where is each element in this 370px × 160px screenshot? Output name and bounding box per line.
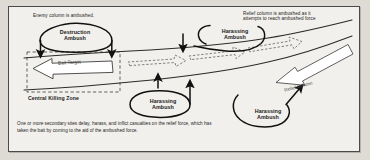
figure-caption: One or more secondary sites delay, haras… <box>17 121 222 134</box>
relief-note: Relief column is ambushed as it attempts… <box>243 11 316 22</box>
ambush-diagram-figure: Enemy column is ambushed. Relief column … <box>0 0 370 160</box>
intro-note: Enemy column is ambushed. <box>33 13 94 18</box>
central-killing-zone-label: Central Killing Zone <box>28 95 79 101</box>
harassing-ambush-right-label: Harassing Ambush <box>246 108 290 121</box>
harassing-ambush-top-label: Harassing Ambush <box>213 28 257 41</box>
harassing-ambush-mid-label: Harassing Ambush <box>140 98 186 111</box>
destruction-ambush-label: Destruction Ambush <box>44 29 106 42</box>
